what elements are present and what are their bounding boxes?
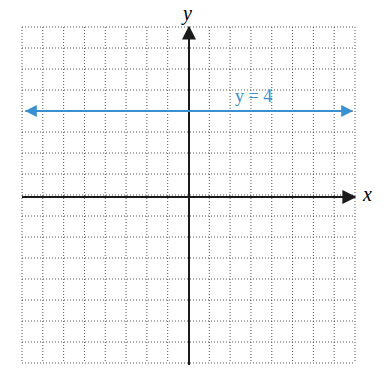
line-label: y = 4 [235,86,272,107]
coordinate-plane [0,0,387,375]
x-axis-label: x [363,183,372,206]
y-axis-label: y [183,2,192,25]
